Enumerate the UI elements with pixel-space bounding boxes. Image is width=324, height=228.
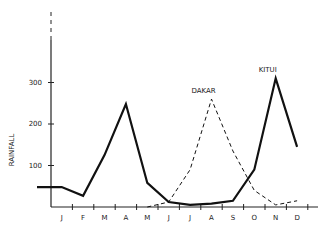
- x-tick-label: J: [188, 214, 191, 222]
- x-tick-label: J: [167, 214, 170, 222]
- x-tick-label: M: [144, 214, 150, 222]
- x-tick-label: A: [124, 214, 129, 222]
- y-tick-label: 300: [29, 79, 42, 87]
- x-tick-label: D: [294, 214, 299, 222]
- x-tick-label: N: [273, 214, 278, 222]
- x-tick-label: J: [60, 214, 63, 222]
- x-tick-label: F: [81, 214, 85, 222]
- series-label: KITUI: [259, 66, 277, 74]
- series-line: [147, 99, 297, 207]
- x-tick-label: O: [252, 214, 258, 222]
- rainfall-chart: JFMAMJJASOND100200300RAINFALLKITUIDAKAR: [0, 0, 324, 228]
- x-tick-label: S: [231, 214, 236, 222]
- y-tick-label: 100: [29, 162, 42, 170]
- y-tick-label: 200: [29, 120, 42, 128]
- x-tick-label: A: [209, 214, 214, 222]
- x-tick-label: M: [101, 214, 107, 222]
- y-axis-label: RAINFALL: [8, 134, 16, 167]
- series-line: [37, 78, 297, 205]
- series-label: DAKAR: [191, 87, 215, 95]
